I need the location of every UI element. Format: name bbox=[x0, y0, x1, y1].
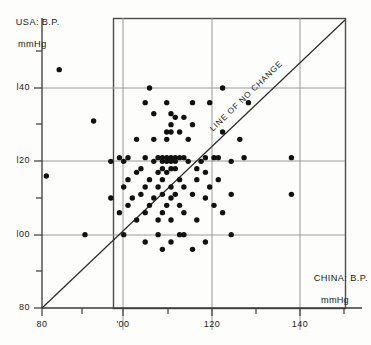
data-point bbox=[207, 184, 212, 189]
data-point bbox=[289, 155, 294, 160]
data-point bbox=[168, 129, 173, 134]
data-point bbox=[117, 155, 122, 160]
ytick-label-120: l20 bbox=[2, 155, 30, 165]
data-point bbox=[181, 232, 186, 237]
y-axis-title: USA: B.P. mmHg bbox=[4, 6, 60, 72]
data-point bbox=[229, 159, 234, 164]
data-point bbox=[173, 159, 178, 164]
data-point bbox=[203, 195, 208, 200]
data-point bbox=[237, 137, 242, 142]
data-point bbox=[190, 100, 195, 105]
data-point bbox=[177, 177, 182, 182]
data-point bbox=[168, 184, 173, 189]
data-point bbox=[108, 159, 113, 164]
data-point bbox=[160, 247, 165, 252]
data-point bbox=[155, 184, 160, 189]
grid-lines bbox=[42, 18, 345, 330]
data-point bbox=[194, 217, 199, 222]
data-point bbox=[160, 210, 165, 215]
data-point bbox=[194, 177, 199, 182]
data-point bbox=[168, 239, 173, 244]
data-point bbox=[121, 184, 126, 189]
data-point bbox=[181, 184, 186, 189]
ytick-label-80: 80 bbox=[2, 302, 30, 312]
data-point bbox=[151, 195, 156, 200]
chart-figure: LINE OF NO CHANGE l40 l20 l00 80 80 '00 … bbox=[0, 0, 371, 345]
data-point bbox=[177, 129, 182, 134]
data-point bbox=[134, 217, 139, 222]
data-point bbox=[220, 210, 225, 215]
data-point bbox=[220, 129, 225, 134]
data-point bbox=[198, 159, 203, 164]
y-axis-ticks bbox=[34, 51, 42, 308]
data-point bbox=[168, 217, 173, 222]
data-point bbox=[203, 170, 208, 175]
data-point bbox=[147, 177, 152, 182]
data-point bbox=[168, 122, 173, 127]
data-point bbox=[246, 100, 251, 105]
data-point bbox=[194, 166, 199, 171]
line-of-no-change-label: LINE OF NO CHANGE bbox=[208, 59, 284, 133]
x-axis-title: CHINA: B.P. mmHg bbox=[302, 262, 368, 328]
data-point bbox=[164, 100, 169, 105]
data-point bbox=[138, 166, 143, 171]
data-point bbox=[138, 192, 143, 197]
data-point bbox=[91, 118, 96, 123]
data-point bbox=[186, 137, 191, 142]
data-point bbox=[216, 155, 221, 160]
data-point bbox=[130, 195, 135, 200]
data-point bbox=[134, 137, 139, 142]
data-point bbox=[125, 203, 130, 208]
x-axis-title-line2: mmHg bbox=[302, 295, 368, 306]
data-point bbox=[164, 203, 169, 208]
data-point bbox=[164, 170, 169, 175]
data-point bbox=[143, 100, 148, 105]
data-point bbox=[168, 111, 173, 116]
data-point bbox=[173, 166, 178, 171]
data-points-layer bbox=[44, 67, 294, 252]
data-point bbox=[229, 192, 234, 197]
data-point bbox=[190, 122, 195, 127]
data-point bbox=[173, 115, 178, 120]
data-point bbox=[143, 184, 148, 189]
data-point bbox=[164, 137, 169, 142]
data-point bbox=[186, 159, 191, 164]
data-point bbox=[143, 239, 148, 244]
data-point bbox=[44, 173, 49, 178]
data-point bbox=[190, 247, 195, 252]
data-point bbox=[173, 192, 178, 197]
data-point bbox=[229, 232, 234, 237]
data-point bbox=[241, 155, 246, 160]
ytick-label-140: l40 bbox=[2, 82, 30, 92]
data-point bbox=[155, 217, 160, 222]
data-point bbox=[216, 177, 221, 182]
data-point bbox=[190, 192, 195, 197]
data-point bbox=[181, 210, 186, 215]
data-point bbox=[181, 155, 186, 160]
data-point bbox=[160, 166, 165, 171]
xtick-label-120: 120 bbox=[196, 319, 228, 329]
data-point bbox=[151, 137, 156, 142]
data-point bbox=[143, 210, 148, 215]
data-point bbox=[160, 192, 165, 197]
data-point bbox=[143, 155, 148, 160]
xtick-label-100: '00 bbox=[107, 319, 139, 329]
data-point bbox=[82, 232, 87, 237]
data-point bbox=[289, 192, 294, 197]
data-point bbox=[125, 177, 130, 182]
data-point bbox=[168, 195, 173, 200]
data-point bbox=[207, 100, 212, 105]
data-point bbox=[203, 239, 208, 244]
data-point bbox=[147, 203, 152, 208]
y-axis-title-line1: USA: B.P. bbox=[16, 17, 60, 27]
data-point bbox=[134, 170, 139, 175]
ytick-label-100: l00 bbox=[2, 229, 30, 239]
data-point bbox=[151, 111, 156, 116]
x-axis-title-line1: CHINA: B.P. bbox=[314, 273, 368, 283]
data-point bbox=[121, 232, 126, 237]
data-point bbox=[151, 159, 156, 164]
xtick-label-80: 80 bbox=[26, 319, 58, 329]
y-axis-title-line2: mmHg bbox=[4, 39, 60, 50]
data-point bbox=[108, 195, 113, 200]
x-axis-ticks bbox=[42, 308, 344, 316]
